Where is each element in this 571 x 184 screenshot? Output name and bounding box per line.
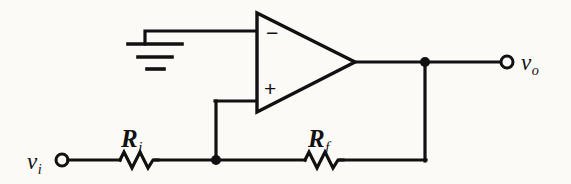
input-voltage-label: vi [27, 150, 42, 173]
feedback-resistor-symbol: R [308, 125, 325, 152]
opamp-inverting-input-sign: − [266, 22, 278, 43]
output-voltage-subscript: o [531, 62, 539, 78]
input-resistor-subscript: i [138, 139, 143, 155]
input-voltage-symbol: v [27, 149, 37, 174]
feedback-resistor-subscript: f [325, 139, 330, 155]
circuit-schematic-svg [0, 0, 571, 184]
wire-ground-to-inverting-input [145, 31, 258, 44]
output-voltage-symbol: v [521, 50, 531, 75]
input-terminal-circle [56, 154, 68, 166]
input-resistor-symbol: R [121, 125, 138, 152]
input-voltage-subscript: i [37, 161, 41, 177]
opamp-noninverting-input-sign: + [264, 78, 276, 99]
output-terminal-circle [501, 56, 513, 68]
opamp-circuit-figure: − + vi vo Ri Rf [0, 0, 571, 184]
output-voltage-label: vo [521, 51, 539, 74]
resistor-rf-zigzag [305, 152, 343, 168]
input-resistor-label: Ri [121, 126, 142, 151]
feedback-resistor-label: Rf [308, 126, 329, 151]
